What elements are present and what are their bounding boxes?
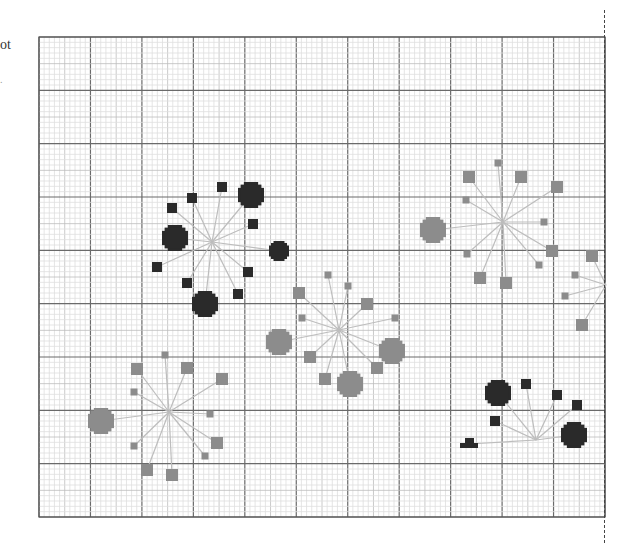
- node: [216, 373, 228, 385]
- node: [586, 250, 598, 262]
- node: [243, 267, 253, 277]
- node: [345, 283, 352, 290]
- node: [207, 411, 214, 418]
- node: [293, 287, 305, 299]
- node: [536, 262, 543, 269]
- viewport-edge-divider: [604, 10, 605, 543]
- node: [337, 371, 363, 397]
- node: [202, 453, 209, 460]
- node: [248, 219, 258, 229]
- node: [474, 272, 486, 284]
- node: [495, 160, 502, 167]
- node: [463, 171, 475, 183]
- node: [515, 171, 527, 183]
- node: [166, 469, 178, 481]
- node: [167, 203, 177, 213]
- node: [463, 197, 470, 204]
- node: [379, 338, 405, 364]
- node: [551, 181, 563, 193]
- node: [371, 362, 383, 374]
- node: [572, 272, 579, 279]
- node: [211, 437, 223, 449]
- node: [561, 422, 587, 448]
- node: [238, 182, 264, 208]
- node: [187, 193, 197, 203]
- node: [485, 380, 511, 406]
- node: [460, 438, 478, 448]
- node: [131, 443, 138, 450]
- node: [266, 329, 292, 355]
- node: [319, 373, 331, 385]
- diagram-canvas: [0, 0, 626, 543]
- node: [420, 217, 446, 243]
- node: [182, 278, 192, 288]
- node: [361, 298, 373, 310]
- node: [131, 389, 138, 396]
- node: [552, 390, 562, 400]
- node: [546, 245, 558, 257]
- node: [500, 277, 512, 289]
- node: [152, 262, 162, 272]
- node: [572, 400, 582, 410]
- node: [192, 291, 218, 317]
- node: [162, 352, 169, 359]
- node: [269, 241, 289, 261]
- grid-background: [39, 37, 605, 517]
- node: [521, 379, 531, 389]
- node: [181, 362, 193, 374]
- node: [576, 319, 588, 331]
- node: [541, 219, 548, 226]
- node: [233, 289, 243, 299]
- node: [562, 293, 569, 300]
- node: [217, 182, 227, 192]
- node: [162, 225, 188, 251]
- node: [299, 315, 306, 322]
- node: [464, 251, 471, 258]
- node: [490, 416, 500, 426]
- node: [141, 464, 153, 476]
- node: [304, 351, 316, 363]
- node: [131, 363, 143, 375]
- node: [392, 315, 399, 322]
- node: [88, 408, 114, 434]
- node: [325, 272, 332, 279]
